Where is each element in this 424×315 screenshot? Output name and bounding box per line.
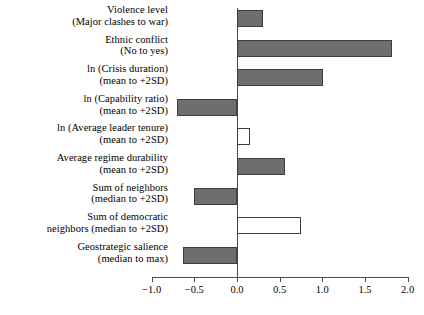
- axis-tick-label: −0.5: [171, 284, 217, 295]
- axis-tick: [237, 278, 238, 282]
- axis-tick-label: 0.5: [257, 284, 303, 295]
- axis-tick: [280, 278, 281, 282]
- bar: [237, 158, 285, 175]
- axis-tick: [408, 278, 409, 282]
- horizontal-bar-chart: Violence level(Major clashes to war)Ethn…: [0, 0, 424, 315]
- axis-tick: [365, 278, 366, 282]
- axis-tick: [322, 278, 323, 282]
- bar: [237, 69, 323, 86]
- x-axis: −1.0−0.50.00.51.01.52.0: [0, 277, 424, 315]
- axis-tick: [152, 278, 153, 282]
- axis-tick-label: −1.0: [129, 284, 175, 295]
- bar: [237, 40, 392, 57]
- axis-tick-label: 1.5: [342, 284, 388, 295]
- bar: [237, 10, 263, 27]
- bar: [183, 247, 237, 264]
- bar: [237, 217, 301, 234]
- bar: [177, 99, 237, 116]
- axis-tick-label: 2.0: [385, 284, 424, 295]
- bar: [194, 188, 237, 205]
- axis-tick: [194, 278, 195, 282]
- axis-tick-label: 1.0: [299, 284, 345, 295]
- bar: [237, 128, 250, 145]
- plot-area: [0, 0, 424, 278]
- axis-tick-label: 0.0: [214, 284, 260, 295]
